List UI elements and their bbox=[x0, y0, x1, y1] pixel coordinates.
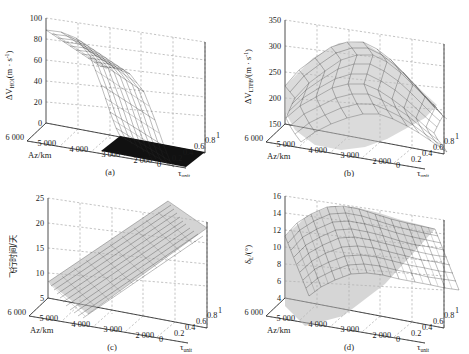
svg-text:τunit: τunit bbox=[180, 342, 193, 353]
y-tick: 0.2 bbox=[172, 154, 182, 163]
panel-c-y-ticks: 0 0.2 0.4 0.6 0.8 1 bbox=[159, 306, 222, 344]
z-tick: 6 bbox=[277, 277, 281, 286]
y-tick: 0.8 bbox=[444, 311, 454, 320]
y-tick: 0.2 bbox=[174, 329, 184, 338]
z-axis-label-unit: (m · s bbox=[4, 58, 14, 79]
z-axis-label-unit: /(°) bbox=[243, 245, 253, 257]
z-axis-label: ΔVLTFB/(m · s-1) bbox=[243, 49, 254, 104]
z-tick: 8 bbox=[277, 260, 281, 269]
x-tick: 2 000 bbox=[134, 156, 152, 165]
z-axis-label-tail: ) bbox=[4, 51, 14, 54]
x-tick: 5 000 bbox=[277, 140, 295, 149]
y-tick: 0.6 bbox=[433, 317, 443, 326]
y-tick: 1 bbox=[455, 306, 459, 315]
y-axis-label-sub: unit bbox=[420, 347, 429, 353]
x-tick: 5 000 bbox=[38, 139, 56, 148]
panel-d-plot: 16 14 12 10 8 6 4 6 000 5 000 4 000 3 00… bbox=[235, 176, 469, 353]
x-tick: 4 000 bbox=[70, 145, 88, 154]
y-tick: 0.8 bbox=[205, 136, 215, 145]
z-tick: 100 bbox=[30, 14, 42, 23]
y-tick: 0.2 bbox=[411, 155, 421, 164]
z-tick: 350 bbox=[269, 16, 281, 25]
panel-c-plot: 25 20 15 10 5 6 000 5 000 4 000 3 000 2 … bbox=[0, 176, 234, 353]
z-tick: 20 bbox=[34, 98, 42, 107]
y-tick: 0.4 bbox=[422, 149, 432, 158]
x-tick: 3 000 bbox=[104, 325, 122, 334]
x-tick: 3 000 bbox=[341, 151, 359, 160]
panel-caption: (c) bbox=[107, 342, 117, 352]
z-tick: 150 bbox=[269, 120, 281, 129]
z-tick: 12 bbox=[273, 226, 281, 235]
x-tick: 6 000 bbox=[245, 134, 263, 143]
x-tick: 6 000 bbox=[8, 308, 26, 317]
y-tick: 1 bbox=[216, 131, 220, 140]
x-tick: 6 000 bbox=[245, 308, 263, 317]
svg-text:δL/(°): δL/(°) bbox=[243, 245, 254, 264]
y-tick: 0 bbox=[157, 160, 161, 169]
y-axis-label: τunit bbox=[180, 342, 193, 353]
z-tick: 0 bbox=[38, 119, 42, 128]
x-tick: 6 000 bbox=[6, 133, 24, 142]
panel-b: 350 300 250 200 150 6 000 5 000 4 000 3 … bbox=[235, 0, 469, 177]
y-tick: 0 bbox=[396, 335, 400, 344]
panel-c-x-ticks: 6 000 5 000 4 000 3 000 2 000 bbox=[8, 308, 154, 340]
x-tick: 5 000 bbox=[277, 314, 295, 323]
z-tick: 300 bbox=[269, 42, 281, 51]
figure-container: 100 80 60 40 20 0 6 000 5 000 4 000 3 00… bbox=[0, 0, 469, 354]
z-axis-label-sub: HOI bbox=[9, 78, 15, 88]
panel-b-z-ticks: 350 300 250 200 150 bbox=[269, 16, 281, 129]
x-tick: 3 000 bbox=[341, 325, 359, 334]
x-tick: 2 000 bbox=[373, 157, 391, 166]
z-tick: 80 bbox=[34, 35, 42, 44]
x-tick: 3 000 bbox=[102, 150, 120, 159]
y-tick: 0.2 bbox=[411, 329, 421, 338]
z-tick: 10 bbox=[273, 243, 281, 252]
z-tick: 16 bbox=[273, 192, 281, 201]
y-tick: 0.4 bbox=[185, 323, 195, 332]
z-axis-label: δL/(°) bbox=[243, 245, 254, 264]
z-axis-label-unit: /(m · s bbox=[243, 56, 253, 79]
x-axis-label: Az/km bbox=[267, 325, 291, 335]
panel-c-z-ticks: 25 20 15 10 5 bbox=[36, 194, 44, 303]
y-tick: 0.6 bbox=[433, 143, 443, 152]
panel-c-surface bbox=[48, 201, 207, 318]
panel-b-surface bbox=[285, 42, 447, 152]
z-axis-label-sub: LTFB bbox=[248, 79, 254, 92]
z-axis-label: 飞行时间/天 bbox=[8, 234, 18, 278]
y-tick: 0.8 bbox=[444, 137, 454, 146]
svg-text:ΔVLTFB/(m · s-1): ΔVLTFB/(m · s-1) bbox=[243, 49, 254, 104]
x-tick: 5 000 bbox=[40, 314, 58, 323]
svg-text:τunit: τunit bbox=[417, 342, 430, 353]
y-tick: 0 bbox=[396, 161, 400, 170]
x-tick: 4 000 bbox=[72, 320, 90, 329]
panel-d: 16 14 12 10 8 6 4 6 000 5 000 4 000 3 00… bbox=[235, 176, 469, 353]
y-axis-label-sub: unit bbox=[183, 347, 192, 353]
svg-text:ΔVHOI(m · s-1): ΔVHOI(m · s-1) bbox=[4, 51, 15, 100]
x-tick: 4 000 bbox=[309, 146, 327, 155]
panel-a-z-ticks: 100 80 60 40 20 0 bbox=[30, 14, 42, 128]
z-tick: 15 bbox=[36, 244, 44, 253]
z-tick: 60 bbox=[34, 56, 42, 65]
x-tick: 2 000 bbox=[373, 331, 391, 340]
y-tick: 0.6 bbox=[194, 142, 204, 151]
panel-a-plot: 100 80 60 40 20 0 6 000 5 000 4 000 3 00… bbox=[0, 0, 234, 177]
z-tick: 4 bbox=[277, 294, 281, 303]
x-axis-label: Az/km bbox=[28, 150, 52, 160]
z-tick: 40 bbox=[34, 77, 42, 86]
y-tick: 0.4 bbox=[422, 323, 432, 332]
z-axis-label-base: ΔV bbox=[4, 87, 14, 100]
z-tick: 20 bbox=[36, 219, 44, 228]
z-tick: 25 bbox=[36, 194, 44, 203]
y-tick: 0 bbox=[159, 335, 163, 344]
panel-a: 100 80 60 40 20 0 6 000 5 000 4 000 3 00… bbox=[0, 0, 234, 177]
z-axis-label: ΔVHOI(m · s-1) bbox=[4, 51, 15, 100]
panel-b-plot: 350 300 250 200 150 6 000 5 000 4 000 3 … bbox=[235, 0, 469, 177]
x-tick: 4 000 bbox=[309, 320, 327, 329]
y-tick: 1 bbox=[455, 132, 459, 141]
y-tick: 0.8 bbox=[207, 311, 217, 320]
panel-caption: (d) bbox=[344, 342, 354, 352]
panel-d-y-ticks: 0 0.2 0.4 0.6 0.8 1 bbox=[396, 306, 459, 344]
z-tick: 200 bbox=[269, 94, 281, 103]
panel-c: 25 20 15 10 5 6 000 5 000 4 000 3 000 2 … bbox=[0, 176, 234, 353]
y-tick: 0.4 bbox=[183, 148, 193, 157]
